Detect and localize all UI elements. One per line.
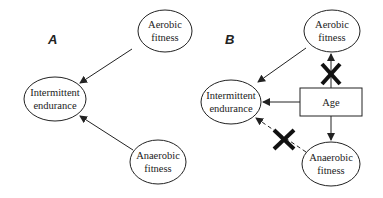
node-label: Intermittent	[206, 90, 256, 101]
edge-aerobic-to-intermittent	[80, 49, 132, 83]
node-a-anaerobic-fitness: Anaerobic fitness	[130, 140, 186, 184]
node-label: endurance	[33, 100, 76, 111]
node-label: Aerobic	[315, 19, 349, 30]
panel-a-label: A	[47, 32, 57, 47]
node-b-age: Age	[300, 88, 362, 116]
edge-aerobic-to-intermittent	[258, 48, 306, 82]
node-label: fitness	[151, 32, 178, 43]
node-label: Age	[322, 97, 340, 108]
node-b-intermittent-endurance: Intermittent endurance	[201, 80, 261, 124]
node-label: fitness	[318, 32, 345, 43]
node-label: endurance	[209, 103, 252, 114]
node-a-intermittent-endurance: Intermittent endurance	[24, 77, 86, 121]
panel-b-label: B	[225, 32, 234, 47]
diagram-canvas: A Aerobic fitness Intermittent endurance…	[0, 0, 383, 198]
node-label: Intermittent	[30, 87, 80, 98]
node-label: fitness	[317, 165, 344, 176]
edge-anaerobic-to-intermittent	[80, 116, 133, 150]
panel-b: B Aerobic fitness Intermittent endurance…	[201, 10, 362, 186]
node-a-aerobic-fitness: Aerobic fitness	[138, 10, 192, 52]
node-b-aerobic-fitness: Aerobic fitness	[304, 10, 360, 52]
node-label: Aerobic	[148, 19, 182, 30]
node-label: fitness	[144, 163, 171, 174]
cross-mark-icon	[274, 130, 294, 149]
node-label: Anaerobic	[136, 150, 180, 161]
node-b-anaerobic-fitness: Anaerobic fitness	[302, 142, 360, 186]
node-label: Anaerobic	[309, 152, 353, 163]
panel-a: A Aerobic fitness Intermittent endurance…	[24, 10, 192, 184]
